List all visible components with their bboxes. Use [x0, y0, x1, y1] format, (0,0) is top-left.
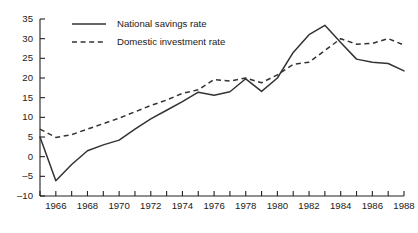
y-tick-label-35: 35 [22, 13, 33, 24]
y-tick-label-30: 30 [22, 33, 33, 44]
x-tick-label-1984: 1984 [330, 200, 352, 211]
x-tick-label-1972: 1972 [140, 200, 161, 211]
y-tick-label-20: 20 [22, 72, 33, 83]
y-tick-label--10: –10 [17, 190, 33, 201]
x-tick-label-1980: 1980 [267, 200, 288, 211]
y-tick-label-15: 15 [22, 92, 33, 103]
series-national-savings-rate [40, 25, 404, 180]
x-axis-ticks [40, 191, 404, 196]
y-tick-label-5: 5 [28, 131, 33, 142]
chart-legend: National savings rate Domestic investmen… [72, 18, 225, 47]
line-chart: 35302520151050–5–10 19661968197019721974… [0, 0, 418, 233]
x-tick-label-1986: 1986 [362, 200, 383, 211]
y-tick-label-25: 25 [22, 52, 33, 63]
data-series-layer [40, 25, 404, 180]
y-tick-label-10: 10 [22, 111, 33, 122]
y-axis-ticks [40, 19, 45, 196]
x-tick-label-1970: 1970 [108, 200, 129, 211]
x-tick-label-1982: 1982 [298, 200, 319, 211]
y-axis-tick-labels: 35302520151050–5–10 [17, 13, 33, 201]
y-tick-label-0: 0 [28, 151, 33, 162]
x-tick-label-1966: 1966 [45, 200, 66, 211]
x-tick-label-1968: 1968 [77, 200, 98, 211]
chart-container: 35302520151050–5–10 19661968197019721974… [0, 0, 418, 233]
legend-label-national-savings-rate: National savings rate [117, 18, 207, 29]
legend-label-domestic-investment-rate: Domestic investment rate [117, 36, 225, 47]
x-tick-label-1978: 1978 [235, 200, 256, 211]
x-tick-label-1976: 1976 [203, 200, 224, 211]
x-tick-label-1988: 1988 [393, 200, 414, 211]
x-tick-label-1974: 1974 [172, 200, 194, 211]
series-domestic-investment-rate [40, 39, 404, 138]
y-tick-label--5: –5 [22, 170, 33, 181]
x-axis-tick-labels: 1966196819701972197419761978198019821984… [45, 200, 415, 211]
